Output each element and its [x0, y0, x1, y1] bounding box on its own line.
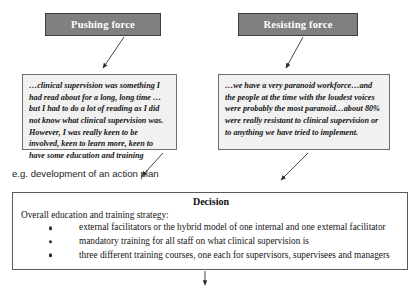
bullet-icon [49, 254, 52, 257]
pushing-force-box: Pushing force [45, 13, 161, 36]
decision-intro-text: Overall education and training strategy: [21, 210, 401, 222]
list-item: mandatory training for all staff on what… [21, 235, 401, 249]
pushing-force-label: Pushing force [71, 19, 135, 31]
decision-bullet-text: mandatory training for all staff on what… [79, 236, 309, 246]
arrow-resisting-quote-to-action-plan [281, 153, 308, 180]
decision-box: Decision Overall education and training … [12, 192, 408, 270]
resisting-force-label: Resisting force [264, 19, 333, 31]
force-field-diagram: Pushing force Resisting force …clinical … [0, 0, 420, 294]
list-item: three different training courses, one ea… [21, 249, 401, 263]
resisting-force-box: Resisting force [238, 13, 358, 36]
pushing-force-quote-text: …clinical supervision was something I ha… [29, 81, 163, 160]
pushing-force-quote-box: …clinical supervision was something I ha… [22, 74, 177, 150]
bullet-icon [49, 226, 52, 229]
resisting-force-quote-text: …we have a very paranoid workforce…and t… [225, 81, 380, 137]
bullet-icon [49, 240, 52, 243]
decision-bullet-text: three different training courses, one ea… [79, 250, 390, 260]
list-item: external facilitators or the hybrid mode… [21, 221, 401, 235]
action-plan-caption: e.g. development of an action plan [12, 168, 159, 179]
resisting-force-quote-box: …we have a very paranoid workforce…and t… [218, 74, 390, 150]
decision-title: Decision [21, 196, 401, 209]
decision-bullet-list: external facilitators or the hybrid mode… [21, 221, 401, 262]
arrow-resisting-to-quote [286, 37, 303, 68]
arrow-pushing-to-quote [103, 37, 124, 68]
decision-bullet-text: external facilitators or the hybrid mode… [79, 222, 386, 232]
